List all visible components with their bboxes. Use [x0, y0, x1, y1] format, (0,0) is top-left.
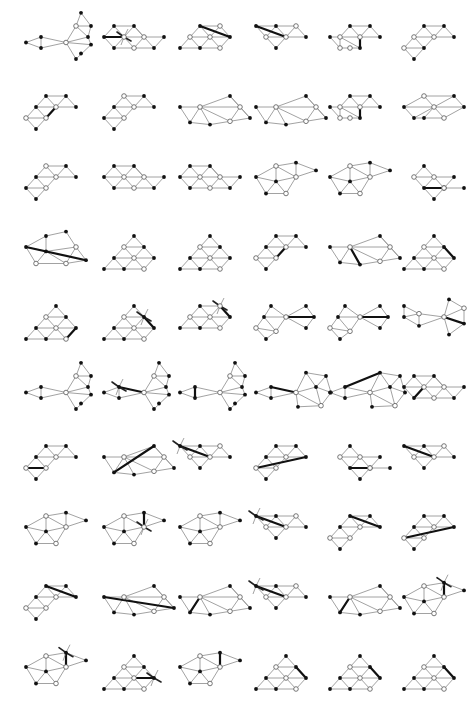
filled-vertex	[447, 298, 451, 302]
open-vertex	[358, 315, 363, 320]
filled-vertex	[304, 371, 308, 375]
graph-edge	[104, 328, 114, 339]
graph-diagram-r1c2	[96, 12, 176, 82]
graph-diagram-r3c3	[172, 152, 252, 222]
filled-vertex	[112, 542, 116, 546]
filled-vertex	[152, 676, 156, 680]
filled-vertex	[274, 46, 278, 50]
graph-diagram-r6c3	[172, 362, 252, 432]
graph-edge	[372, 406, 395, 407]
graph-edge	[46, 656, 66, 667]
filled-vertex	[164, 385, 168, 389]
filled-vertex	[188, 186, 192, 190]
graph-edge	[370, 26, 380, 37]
graph-edge	[340, 262, 360, 264]
filled-vertex	[44, 337, 48, 341]
filled-vertex	[304, 455, 308, 459]
filled-vertex	[117, 385, 121, 389]
open-vertex	[122, 665, 127, 670]
open-vertex	[442, 595, 447, 600]
graph-edge	[404, 597, 414, 614]
graph-edge	[26, 328, 36, 339]
graph-edge	[404, 317, 419, 326]
graph-edge	[256, 166, 276, 177]
graph-edge	[276, 177, 296, 181]
filled-vertex	[338, 676, 342, 680]
open-vertex	[284, 455, 289, 460]
open-vertex	[348, 116, 353, 121]
graph-edge	[66, 446, 76, 457]
graph-edge	[444, 308, 464, 317]
filled-vertex	[304, 595, 308, 599]
graph-edge	[414, 601, 424, 613]
graph-edge	[370, 163, 390, 171]
open-vertex	[274, 256, 279, 261]
open-vertex	[198, 595, 203, 600]
graph-edge	[360, 177, 370, 194]
graph-diagram-r4c5	[322, 222, 402, 292]
graph-diagram-r1c6	[396, 12, 473, 82]
graph-edge	[350, 177, 370, 181]
graph-edge	[266, 181, 276, 193]
filled-vertex	[452, 676, 456, 680]
filled-vertex	[264, 267, 268, 271]
graph-edge	[454, 387, 464, 398]
filled-vertex	[452, 525, 456, 529]
filled-vertex	[238, 659, 242, 663]
filled-vertex	[447, 333, 451, 337]
filled-vertex	[368, 24, 372, 28]
graph-diagram-r4c4	[248, 222, 328, 292]
graph-edge	[56, 667, 66, 684]
filled-vertex	[167, 374, 171, 378]
graph-diagram-r9c4	[248, 572, 328, 642]
graph-edge	[56, 306, 66, 317]
open-vertex	[44, 654, 49, 659]
filled-vertex	[178, 46, 182, 50]
graph-edge	[256, 107, 266, 122]
open-vertex	[34, 261, 39, 266]
filled-vertex	[328, 595, 332, 599]
graph-diagram-r7c5	[322, 432, 402, 502]
filled-vertex	[162, 35, 166, 39]
filled-vertex	[142, 665, 146, 669]
graph-edge	[104, 387, 119, 393]
graph-edge	[286, 306, 306, 317]
open-vertex	[24, 606, 29, 611]
filled-vertex	[452, 455, 456, 459]
graph-diagram-r6c1	[18, 362, 98, 432]
filled-vertex	[228, 407, 232, 411]
graph-edge	[200, 586, 230, 597]
graph-edge	[345, 306, 360, 317]
graph-edge	[134, 471, 154, 474]
filled-vertex	[112, 186, 116, 190]
filled-vertex	[102, 267, 106, 271]
filled-vertex	[132, 234, 136, 238]
graph-edge	[345, 387, 370, 393]
filled-vertex	[198, 24, 202, 28]
graph-edge	[144, 247, 154, 258]
filled-vertex	[264, 676, 268, 680]
graph-edge	[276, 166, 296, 177]
graph-diagram-r9c5	[322, 572, 402, 642]
filled-vertex	[24, 245, 28, 249]
graph-edge	[276, 163, 296, 166]
filled-vertex	[102, 595, 106, 599]
open-vertex	[294, 390, 299, 395]
filled-vertex	[294, 444, 298, 448]
filled-vertex	[39, 35, 43, 39]
figure-grid	[0, 0, 473, 720]
open-vertex	[152, 609, 157, 614]
filled-vertex	[422, 116, 426, 120]
open-vertex	[54, 595, 59, 600]
open-vertex	[198, 105, 203, 110]
open-vertex	[238, 595, 243, 600]
filled-vertex	[328, 105, 332, 109]
graph-edge	[190, 612, 210, 614]
filled-vertex	[79, 52, 83, 56]
filled-vertex	[378, 371, 382, 375]
filled-vertex	[412, 547, 416, 551]
graph-edge	[180, 516, 200, 527]
filled-vertex	[402, 267, 406, 271]
filled-vertex	[402, 304, 406, 308]
open-vertex	[142, 337, 147, 342]
